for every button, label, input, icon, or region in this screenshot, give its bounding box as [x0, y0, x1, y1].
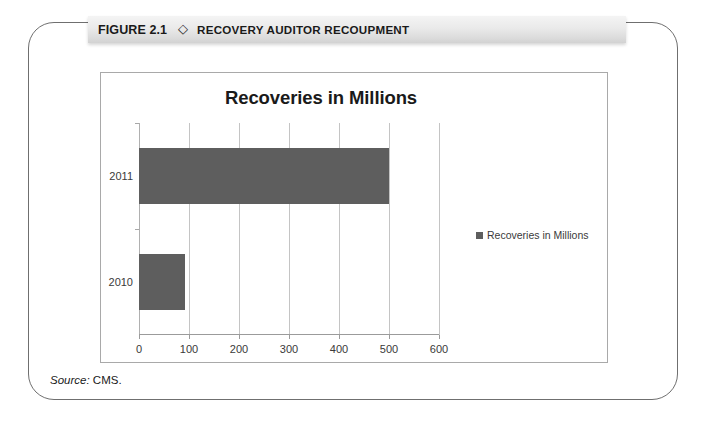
- source-keyword: Source:: [50, 374, 90, 386]
- source-note: Source: CMS.: [50, 374, 122, 386]
- figure-number: FIGURE 2.1: [98, 23, 167, 37]
- x-axis-tick-label: 400: [330, 343, 348, 355]
- x-axis-tick-label: 600: [430, 343, 448, 355]
- plot-inner: [139, 123, 439, 335]
- figure-title: RECOVERY AUDITOR RECOUPMENT: [197, 23, 409, 36]
- plot-area: [139, 123, 439, 335]
- y-axis-tick: [135, 229, 139, 230]
- diamond-icon: ◇: [178, 23, 188, 36]
- gridline: [439, 123, 440, 335]
- chart-legend: Recoveries in Millions: [476, 229, 589, 241]
- chart-title: Recoveries in Millions: [101, 87, 541, 109]
- bar-2010: [139, 254, 185, 310]
- y-axis-tick-label: 2010: [109, 276, 133, 288]
- gridline: [389, 123, 390, 335]
- y-axis-tick: [135, 123, 139, 124]
- y-axis-labels: 20102011: [101, 123, 139, 335]
- x-axis-tick-label: 500: [380, 343, 398, 355]
- x-axis-tick: [439, 335, 440, 339]
- x-axis-tick-label: 100: [180, 343, 198, 355]
- legend-swatch-icon: [476, 232, 483, 239]
- x-axis-tick-label: 0: [136, 343, 142, 355]
- bar-2011: [139, 148, 389, 204]
- source-value: CMS.: [93, 374, 122, 386]
- x-axis-tick-label: 200: [230, 343, 248, 355]
- legend-entry-label: Recoveries in Millions: [487, 229, 589, 241]
- x-axis-tick-label: 300: [280, 343, 298, 355]
- figure-title-bar: FIGURE 2.1 ◇ RECOVERY AUDITOR RECOUPMENT: [88, 16, 626, 43]
- x-axis-labels: 0100200300400500600: [139, 335, 439, 355]
- chart-container: Recoveries in Millions 20102011 01002003…: [100, 72, 608, 363]
- y-axis-tick-label: 2011: [109, 170, 133, 182]
